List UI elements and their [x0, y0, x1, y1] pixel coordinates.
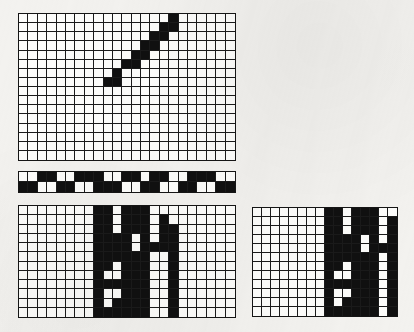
- grid-cell-empty: [262, 226, 271, 235]
- grid-cell-empty: [66, 262, 75, 271]
- grid-cell-empty: [38, 32, 47, 41]
- grid-cell-empty: [28, 32, 37, 41]
- grid-cell-filled: [94, 215, 103, 224]
- grid-cell-filled: [325, 262, 334, 271]
- strip-cell-empty: [216, 172, 225, 182]
- grid-cell-empty: [226, 51, 235, 60]
- grid-cell-filled: [352, 271, 361, 280]
- grid-cell-empty: [28, 105, 37, 114]
- grid-cell-empty: [316, 271, 325, 280]
- grid-cell-empty: [19, 69, 28, 78]
- grid-cell-filled: [104, 243, 113, 252]
- grid-cell-filled: [352, 307, 361, 316]
- grid-cell-filled: [94, 299, 103, 308]
- grid-cell-empty: [216, 114, 225, 123]
- grid-cell-empty: [361, 235, 370, 244]
- grid-cell-empty: [197, 271, 206, 280]
- grid-cell-empty: [57, 124, 66, 133]
- grid-cell-filled: [113, 243, 122, 252]
- grid-cell-empty: [271, 244, 280, 253]
- grid-cell-empty: [226, 96, 235, 105]
- grid-cell-empty: [19, 124, 28, 133]
- grid-cell-empty: [253, 253, 262, 262]
- grid-cell-filled: [104, 225, 113, 234]
- grid-cell-empty: [47, 225, 56, 234]
- grid-cell-empty: [280, 271, 289, 280]
- grid-cell-filled: [113, 308, 122, 317]
- grid-cell-empty: [207, 215, 216, 224]
- grid-cell-empty: [57, 280, 66, 289]
- grid-cell-empty: [307, 226, 316, 235]
- grid-cell-empty: [75, 78, 84, 87]
- grid-cell-empty: [150, 280, 159, 289]
- grid-cell-empty: [132, 142, 141, 151]
- grid-cell-filled: [370, 298, 379, 307]
- grid-cell-empty: [141, 87, 150, 96]
- grid-cell-filled: [388, 217, 397, 226]
- strip-cell-filled: [141, 182, 150, 192]
- grid-cell-empty: [66, 51, 75, 60]
- grid-cell-empty: [188, 243, 197, 252]
- grid-cell-empty: [28, 114, 37, 123]
- grid-cell-filled: [132, 299, 141, 308]
- grid-cell-empty: [85, 243, 94, 252]
- grid-cell-empty: [188, 206, 197, 215]
- grid-cell-empty: [188, 142, 197, 151]
- grid-cell-empty: [160, 289, 169, 298]
- grid-cell-empty: [113, 262, 122, 271]
- grid-cell-empty: [113, 32, 122, 41]
- grid-cell-empty: [85, 234, 94, 243]
- grid-cell-empty: [57, 96, 66, 105]
- grid-cell-filled: [122, 243, 131, 252]
- grid-cell-empty: [179, 234, 188, 243]
- grid-cell-filled: [104, 78, 113, 87]
- grid-cell-filled: [104, 280, 113, 289]
- grid-cell-empty: [19, 280, 28, 289]
- grid-cell-filled: [122, 60, 131, 69]
- grid-cell-empty: [216, 299, 225, 308]
- grid-cell-filled: [388, 271, 397, 280]
- grid-cell-filled: [325, 280, 334, 289]
- grid-cell-empty: [38, 51, 47, 60]
- grid-cell-empty: [85, 78, 94, 87]
- strip-cell-empty: [66, 172, 75, 182]
- grid-cell-empty: [47, 60, 56, 69]
- grid-cell-filled: [132, 280, 141, 289]
- grid-cell-empty: [141, 96, 150, 105]
- grid-cell-empty: [122, 151, 131, 160]
- grid-cell-empty: [160, 41, 169, 50]
- grid-cell-filled: [113, 78, 122, 87]
- grid-cell-empty: [188, 14, 197, 23]
- grid-cell-filled: [122, 289, 131, 298]
- grid-cell-empty: [47, 215, 56, 224]
- grid-cell-empty: [379, 217, 388, 226]
- grid-cell-empty: [47, 299, 56, 308]
- grid-cell-empty: [47, 114, 56, 123]
- grid-cell-empty: [280, 298, 289, 307]
- grid-cell-empty: [216, 262, 225, 271]
- grid-cell-filled: [113, 299, 122, 308]
- grid-cell-empty: [179, 69, 188, 78]
- grid-cell-filled: [388, 280, 397, 289]
- grid-cell-empty: [132, 14, 141, 23]
- strip-cell-filled: [150, 172, 159, 182]
- strip-cell-empty: [132, 182, 141, 192]
- grid-cell-empty: [207, 308, 216, 317]
- strip-cell-filled: [216, 182, 225, 192]
- grid-cell-empty: [57, 87, 66, 96]
- grid-cell-empty: [94, 142, 103, 151]
- grid-cell-empty: [85, 32, 94, 41]
- grid-cell-empty: [150, 206, 159, 215]
- grid-cell-empty: [57, 206, 66, 215]
- grid-cell-empty: [207, 289, 216, 298]
- strip-cell-empty: [160, 182, 169, 192]
- grid-cell-empty: [66, 308, 75, 317]
- grid-cell-empty: [94, 87, 103, 96]
- grid-cell-empty: [262, 271, 271, 280]
- grid-cell-empty: [75, 14, 84, 23]
- grid-cell-empty: [75, 23, 84, 32]
- grid-cell-empty: [216, 133, 225, 142]
- grid-cell-empty: [343, 217, 352, 226]
- grid-cell-filled: [122, 215, 131, 224]
- grid-cell-empty: [188, 215, 197, 224]
